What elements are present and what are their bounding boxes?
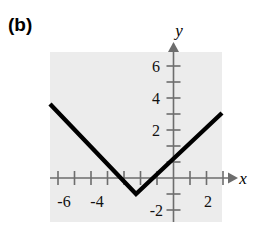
y-tick-label-4: 4 <box>152 90 160 107</box>
x-axis-label: x <box>238 169 247 188</box>
x-axis-arrow-icon <box>228 173 238 184</box>
x-tick-label-2: 2 <box>204 193 212 210</box>
y-axis-label: y <box>173 21 183 40</box>
y-tick-label-2: 2 <box>152 122 160 139</box>
y-axis-arrow-icon <box>168 42 179 52</box>
graph-plot: x y <box>0 0 260 233</box>
figure-panel: (b) x y <box>0 0 260 233</box>
y-tick-label-6: 6 <box>152 58 160 75</box>
x-tick-label--6: -6 <box>57 193 70 210</box>
x-tick-label--4: -4 <box>90 193 103 210</box>
y-tick-label--2: -2 <box>150 202 163 219</box>
